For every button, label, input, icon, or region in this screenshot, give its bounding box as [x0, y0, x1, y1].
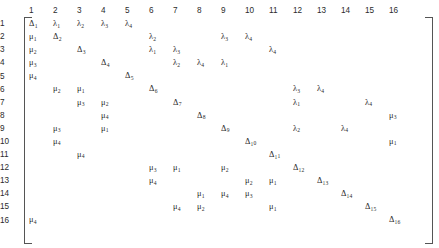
matrix-cell-r14-c5	[125, 187, 149, 200]
row-header-15: 15	[0, 200, 22, 213]
matrix-cell-r14-c14: Δ₁4	[341, 187, 365, 200]
matrix-cell-r7-c6	[149, 96, 173, 109]
matrix-cell-r7-c16	[389, 96, 413, 109]
bracket-left-cell	[22, 43, 29, 56]
column-header-5: 5	[125, 4, 149, 17]
bracket-right-cell	[413, 214, 420, 227]
matrix-cell-r15-c6	[149, 200, 173, 213]
matrix-cell-r13-c15	[365, 174, 389, 187]
matrix-cell-r5-c2	[53, 69, 77, 82]
matrix-cell-r15-c9	[221, 200, 245, 213]
matrix-cell-r6-c8	[197, 83, 221, 96]
matrix-cell-r15-c1	[29, 200, 53, 213]
matrix-cell-r5-c5: Δ5	[125, 69, 149, 82]
matrix-cell-r7-c5	[125, 96, 149, 109]
matrix-cell-r12-c12: Δ₁2	[293, 161, 317, 174]
matrix-cell-r3-c1: μ2	[29, 43, 53, 56]
matrix-cell-r6-c7	[173, 83, 197, 96]
matrix-cell-r11-c1	[29, 148, 53, 161]
bracket-right-cell	[413, 148, 420, 161]
matrix-cell-r15-c11: μ1	[269, 200, 293, 213]
column-header-14: 14	[341, 4, 365, 17]
matrix-cell-r3-c13	[317, 43, 341, 56]
matrix-cell-r11-c14	[341, 148, 365, 161]
matrix-cell-r14-c11	[269, 187, 293, 200]
matrix-cell-r10-c4	[101, 135, 125, 148]
matrix-cell-r16-c3	[77, 214, 101, 227]
matrix-cell-r16-c11	[269, 214, 293, 227]
column-header-2: 2	[53, 4, 77, 17]
matrix-cell-r5-c13	[317, 69, 341, 82]
matrix-cell-r7-c3: μ3	[77, 96, 101, 109]
matrix-cell-r13-c1	[29, 174, 53, 187]
matrix-cell-r6-c2: μ2	[53, 83, 77, 96]
matrix-cell-r16-c12	[293, 214, 317, 227]
matrix-cell-r5-c16	[389, 69, 413, 82]
column-header-8: 8	[197, 4, 221, 17]
matrix-cell-r16-c8	[197, 214, 221, 227]
matrix-cell-r13-c10: μ2	[245, 174, 269, 187]
matrix-cell-r10-c8	[197, 135, 221, 148]
matrix-cell-r1-c14	[341, 17, 365, 30]
matrix-cell-r14-c10: μ3	[245, 187, 269, 200]
matrix-cell-r16-c4	[101, 214, 125, 227]
matrix-cell-r13-c7	[173, 174, 197, 187]
column-header-6: 6	[149, 4, 173, 17]
matrix-column-header-row: 1 2 3 4 5 6 7 8 9 10 11 12 13 14 15 16	[0, 4, 420, 17]
matrix-cell-r2-c10: λ4	[245, 30, 269, 43]
matrix-cell-r8-c3	[77, 109, 101, 122]
matrix-cell-r6-c12: λ3	[293, 83, 317, 96]
bracket-left-cell	[22, 148, 29, 161]
matrix-cell-r16-c15	[365, 214, 389, 227]
matrix-cell-r11-c7	[173, 148, 197, 161]
matrix-cell-r11-c5	[125, 148, 149, 161]
matrix-cell-r11-c12	[293, 148, 317, 161]
matrix-cell-r15-c3	[77, 200, 101, 213]
column-header-11: 11	[269, 4, 293, 17]
matrix-cell-r2-c16	[389, 30, 413, 43]
matrix-body: 1Δ1λ1λ2λ3λ42μ1Δ2λ2λ3λ43μ2Δ3λ1λ3λ44μ3Δ4λ2…	[0, 17, 420, 227]
matrix-cell-r5-c9	[221, 69, 245, 82]
matrix-cell-r12-c11	[269, 161, 293, 174]
bracket-left-cell	[22, 30, 29, 43]
matrix-cell-r2-c2: Δ2	[53, 30, 77, 43]
row-header-5: 5	[0, 69, 22, 82]
column-header-1: 1	[29, 4, 53, 17]
bracket-right-cell	[413, 96, 420, 109]
bracket-left-cell	[22, 69, 29, 82]
matrix-cell-r3-c6: λ1	[149, 43, 173, 56]
matrix-cell-r5-c12	[293, 69, 317, 82]
matrix-cell-r1-c10	[245, 17, 269, 30]
bracket-left-cell	[22, 17, 29, 30]
matrix-cell-r15-c15: Δ₁5	[365, 200, 389, 213]
row-header-14: 14	[0, 187, 22, 200]
bracket-left-cell	[22, 135, 29, 148]
matrix-cell-r8-c4: μ4	[101, 109, 125, 122]
matrix-cell-r1-c7	[173, 17, 197, 30]
matrix-row: 11μ4Δ₁1	[0, 148, 420, 161]
matrix-cell-r13-c14	[341, 174, 365, 187]
matrix-cell-r10-c5	[125, 135, 149, 148]
matrix-cell-r16-c6	[149, 214, 173, 227]
matrix-cell-r15-c10	[245, 200, 269, 213]
matrix-cell-r8-c12	[293, 109, 317, 122]
matrix-cell-r15-c4	[101, 200, 125, 213]
matrix-cell-r15-c12	[293, 200, 317, 213]
matrix-cell-r3-c3: Δ3	[77, 43, 101, 56]
bracket-right-spacer	[413, 4, 420, 17]
matrix-cell-r2-c11	[269, 30, 293, 43]
matrix-cell-r1-c13	[317, 17, 341, 30]
row-header-2: 2	[0, 30, 22, 43]
matrix-row: 9μ3μ1Δ9λ2λ4	[0, 122, 420, 135]
matrix-cell-r14-c16	[389, 187, 413, 200]
matrix-cell-r8-c11	[269, 109, 293, 122]
column-header-12: 12	[293, 4, 317, 17]
matrix-cell-r12-c3	[77, 161, 101, 174]
matrix-cell-r10-c2: μ4	[53, 135, 77, 148]
matrix-cell-r7-c7: Δ7	[173, 96, 197, 109]
matrix-cell-r7-c13	[317, 96, 341, 109]
matrix-cell-r15-c13	[317, 200, 341, 213]
column-header-4: 4	[101, 4, 125, 17]
bracket-right-cell	[413, 161, 420, 174]
bracket-left-cell	[22, 174, 29, 187]
